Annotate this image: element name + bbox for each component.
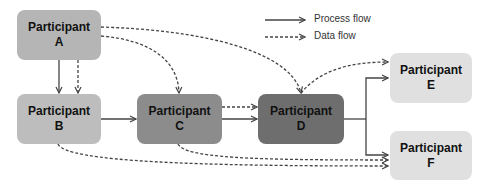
- edge-a-c-data: [101, 36, 179, 93]
- edge-d-f-process: [366, 119, 388, 155]
- legend-data-label: Data flow: [314, 30, 356, 41]
- participant-e-title: Participant: [400, 63, 462, 78]
- participant-f-title: Participant: [400, 141, 462, 156]
- participant-d-node: Participant D: [258, 94, 344, 144]
- participant-c-letter: C: [175, 119, 184, 134]
- edge-d-e-process: [366, 78, 388, 119]
- participant-b-node: Participant B: [17, 94, 101, 144]
- participant-c-node: Participant C: [137, 94, 222, 144]
- participant-a-title: Participant: [28, 20, 90, 35]
- participant-b-letter: B: [55, 119, 64, 134]
- participant-d-title: Participant: [270, 104, 332, 119]
- participant-c-title: Participant: [148, 104, 210, 119]
- participant-b-title: Participant: [28, 104, 90, 119]
- participant-e-node: Participant E: [390, 53, 472, 103]
- legend-process-label: Process flow: [314, 13, 371, 24]
- participant-d-letter: D: [297, 119, 306, 134]
- edge-c-f-data: [178, 144, 388, 160]
- participant-f-letter: F: [427, 156, 434, 171]
- participant-f-node: Participant F: [390, 131, 472, 180]
- participant-a-node: Participant A: [17, 10, 101, 60]
- participant-a-letter: A: [55, 35, 64, 50]
- participant-e-letter: E: [427, 78, 435, 93]
- edge-b-f-data: [58, 144, 388, 166]
